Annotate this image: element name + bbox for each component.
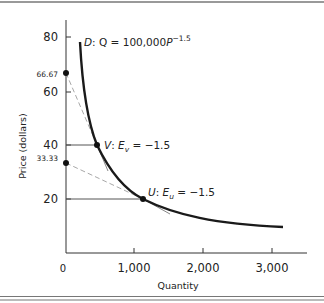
x-tick-label-1000: 1,000 [118, 261, 151, 275]
tangent-u-dashed [66, 163, 143, 199]
chart-svg: 80 60 40 20 0 1,000 2,000 3,000 Quantity… [0, 0, 324, 303]
y-tick-label-20: 20 [43, 192, 58, 206]
curve-label-equation: : Q = 100,000 [92, 36, 166, 48]
intercept-point-66-67 [63, 70, 69, 76]
point-u [140, 196, 146, 202]
y-axis-title: Price (dollars) [17, 113, 28, 178]
intercept-label-33-33: 33.33 [37, 154, 59, 163]
x-tick-label-0: 0 [60, 263, 66, 274]
x-tick-label-2000: 2,000 [187, 261, 220, 275]
point-v-label: V: Ev = −1.5 [104, 139, 170, 154]
point-u-label: U: Eu = −1.5 [148, 186, 215, 201]
intercept-point-33-33 [63, 160, 69, 166]
curve-label: D: Q = 100,000P−1.5 [84, 34, 191, 48]
x-tick-label-3000: 3,000 [256, 261, 289, 275]
curve-label-d: D [84, 36, 92, 48]
x-axis-title: Quantity [157, 280, 198, 291]
y-tick-label-80: 80 [43, 30, 58, 44]
y-tick-label-40: 40 [43, 138, 58, 152]
intercept-label-66-67: 66.67 [37, 70, 59, 79]
chart-figure: 80 60 40 20 0 1,000 2,000 3,000 Quantity… [0, 0, 324, 303]
y-ticks [66, 37, 71, 199]
curve-label-exponent: −1.5 [172, 34, 190, 43]
x-ticks [134, 248, 272, 253]
y-tick-label-60: 60 [43, 85, 58, 99]
point-v [94, 142, 100, 148]
